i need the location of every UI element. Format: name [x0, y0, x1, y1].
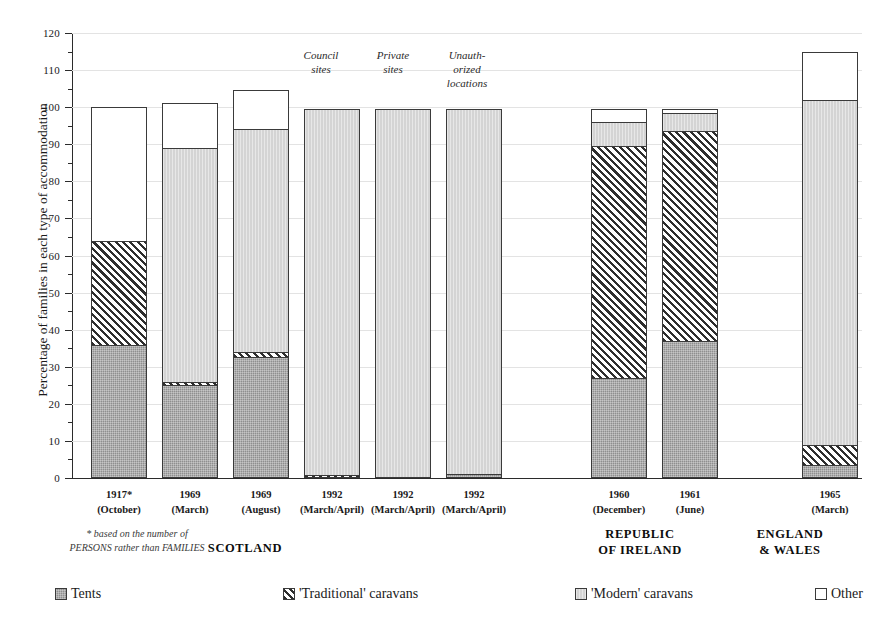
x-label-period: (March/April) [431, 502, 517, 517]
bar-segment-trad[interactable] [233, 352, 289, 358]
x-axis-line [72, 478, 862, 479]
bar-segment-modern[interactable] [662, 113, 718, 132]
y-tick-label: 40 [30, 324, 60, 336]
y-tick-label: 20 [30, 398, 60, 410]
bar-segment-trad[interactable] [162, 382, 218, 386]
bar-column[interactable] [304, 33, 360, 478]
region-label-line: OF IRELAND [598, 543, 682, 557]
bar-segment-modern[interactable] [304, 109, 360, 475]
legend-item[interactable]: Tents [55, 586, 101, 602]
bar-column[interactable] [233, 33, 289, 478]
annotation-line: locations [447, 77, 487, 89]
y-tick-minor [68, 52, 72, 53]
bar-column[interactable] [162, 33, 218, 478]
y-tick-label: 80 [30, 175, 60, 187]
y-tick-label: 120 [30, 27, 60, 39]
bar-segment-other[interactable] [662, 109, 718, 113]
y-tick-minor [68, 422, 72, 423]
footnote-line: * based on the number of [86, 528, 187, 539]
bar-segment-tents[interactable] [802, 465, 858, 478]
modern-swatch [575, 588, 587, 600]
region-label-line: ENGLAND [757, 527, 824, 541]
legend-label: Tents [71, 586, 101, 602]
bar-segment-other[interactable] [91, 107, 147, 241]
bar-segment-trad[interactable] [591, 146, 647, 378]
y-tick-minor [68, 126, 72, 127]
bar-segment-tents[interactable] [91, 345, 147, 479]
x-label-year: 1961 [647, 487, 733, 502]
y-tick-label: 50 [30, 287, 60, 299]
y-tick-minor [68, 89, 72, 90]
region-label-line: REPUBLIC [605, 527, 674, 541]
legend-label: 'Modern' caravans [591, 586, 693, 602]
bar-segment-modern[interactable] [233, 129, 289, 352]
bar-segment-other[interactable] [233, 90, 289, 129]
region-label-england-wales: ENGLAND & WALES [720, 526, 860, 558]
y-tick-label: 90 [30, 138, 60, 150]
bar-segment-other[interactable] [162, 103, 218, 148]
annotation-unauthorized-locations: Unauth- orized locations [430, 48, 504, 90]
legend-item[interactable]: 'Traditional' caravans [283, 586, 418, 602]
x-label-year: 1992 [431, 487, 517, 502]
bar-segment-tents[interactable] [591, 378, 647, 478]
y-tick-minor [68, 459, 72, 460]
y-tick-major [65, 218, 72, 219]
legend-item[interactable]: 'Modern' caravans [575, 586, 693, 602]
y-tick-major [65, 404, 72, 405]
bar-column[interactable] [91, 33, 147, 478]
bar-column[interactable] [662, 33, 718, 478]
y-tick-minor [68, 163, 72, 164]
y-tick-label: 110 [30, 64, 60, 76]
bar-segment-tents[interactable] [162, 385, 218, 478]
x-axis-category-label: 1961(June) [647, 487, 733, 517]
plot-area [72, 33, 862, 478]
footnote-line: PERSONS rather than FAMILIES [69, 542, 204, 553]
x-label-period: (March) [787, 502, 873, 517]
y-tick-label: 70 [30, 212, 60, 224]
bar-segment-trad[interactable] [91, 241, 147, 345]
region-label-line: & WALES [759, 543, 820, 557]
y-tick-minor [68, 311, 72, 312]
bar-column[interactable] [446, 33, 502, 478]
y-tick-label: 100 [30, 101, 60, 113]
bar-segment-other[interactable] [802, 52, 858, 100]
bar-segment-tents[interactable] [662, 341, 718, 478]
y-tick-minor [68, 385, 72, 386]
bar-segment-modern[interactable] [162, 148, 218, 382]
bar-segment-modern[interactable] [591, 122, 647, 146]
bar-segment-tents[interactable] [233, 357, 289, 478]
y-tick-major [65, 70, 72, 71]
y-tick-label: 10 [30, 435, 60, 447]
y-tick-minor [68, 274, 72, 275]
annotation-private-sites: Private sites [360, 48, 426, 76]
x-label-year: 1965 [787, 487, 873, 502]
bar-segment-modern[interactable] [446, 109, 502, 474]
annotation-council-sites: Council sites [288, 48, 354, 76]
y-tick-label: 30 [30, 361, 60, 373]
y-tick-minor [68, 348, 72, 349]
bar-segment-other[interactable] [591, 109, 647, 122]
x-axis-category-label: 1965(March) [787, 487, 873, 517]
bar-segment-modern[interactable] [802, 100, 858, 445]
y-tick-major [65, 144, 72, 145]
bar-segment-trad[interactable] [662, 131, 718, 341]
y-tick-major [65, 107, 72, 108]
bar-column[interactable] [591, 33, 647, 478]
y-tick-label: 60 [30, 250, 60, 262]
bar-segment-trad[interactable] [304, 475, 360, 478]
bar-column[interactable] [802, 33, 858, 478]
bar-segment-modern[interactable] [375, 109, 431, 478]
legend-item[interactable]: Other [815, 586, 863, 602]
other-swatch [815, 588, 827, 600]
bar-column[interactable] [375, 33, 431, 478]
tents-swatch [55, 588, 67, 600]
annotation-line: sites [311, 63, 331, 75]
y-tick-major [65, 293, 72, 294]
y-tick-major [65, 478, 72, 479]
y-tick-major [65, 181, 72, 182]
traditional-swatch [283, 588, 295, 600]
annotation-line: orized [453, 63, 481, 75]
bar-segment-trad[interactable] [802, 445, 858, 465]
bar-segment-tents[interactable] [446, 474, 502, 478]
footnote: * based on the number of PERSONS rather … [42, 527, 232, 554]
